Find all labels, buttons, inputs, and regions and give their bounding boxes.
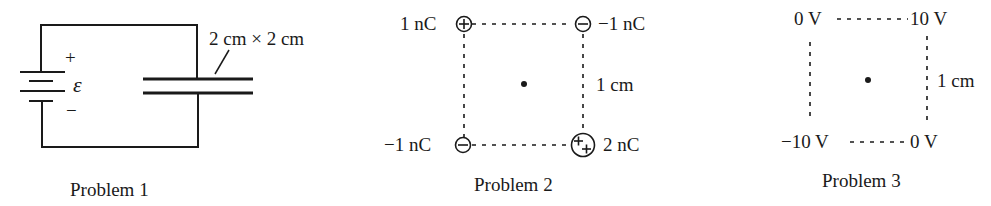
emf-symbol: ε <box>73 72 82 97</box>
center-point-dot <box>521 81 527 87</box>
battery-icon <box>20 72 65 101</box>
double-positive-charge-icon <box>572 134 595 157</box>
potential-label-top-left: 0 V <box>794 8 822 29</box>
negative-charge-icon <box>456 138 471 153</box>
potential-label-top-right: 10 V <box>910 8 947 29</box>
center-point-dot <box>865 77 871 83</box>
plate-size-label: 2 cm × 2 cm <box>209 28 304 49</box>
problem-1-circuit: + ε − 2 cm × 2 cm Problem 1 <box>20 25 304 200</box>
battery-minus-label: − <box>66 100 77 121</box>
potential-label-bottom-left: −10 V <box>781 131 829 152</box>
problem-3-caption: Problem 3 <box>822 170 901 191</box>
charge-label-top-left: 1 nC <box>400 13 436 34</box>
charge-label-bottom-left: −1 nC <box>384 134 431 155</box>
problem-2-caption: Problem 2 <box>474 174 553 195</box>
side-length-label: 1 cm <box>596 74 634 95</box>
problem-3-potentials: 0 V 10 V −10 V 0 V 1 cm Problem 3 <box>781 8 975 191</box>
side-length-label: 1 cm <box>937 70 975 91</box>
charge-label-bottom-right: 2 nC <box>603 134 639 155</box>
physics-problems-figure: + ε − 2 cm × 2 cm Problem 1 1 nC <box>0 0 991 206</box>
battery-plus-label: + <box>65 47 76 68</box>
potential-label-bottom-right: 0 V <box>910 131 938 152</box>
positive-charge-icon <box>457 17 472 32</box>
negative-charge-icon <box>576 17 591 32</box>
capacitor-icon <box>143 79 253 93</box>
problem-2-charges: 1 nC −1 nC −1 nC 2 nC 1 cm Problem 2 <box>384 13 645 195</box>
plate-size-leader-line <box>215 50 229 74</box>
problem-1-caption: Problem 1 <box>70 179 149 200</box>
charge-label-top-right: −1 nC <box>598 13 645 34</box>
